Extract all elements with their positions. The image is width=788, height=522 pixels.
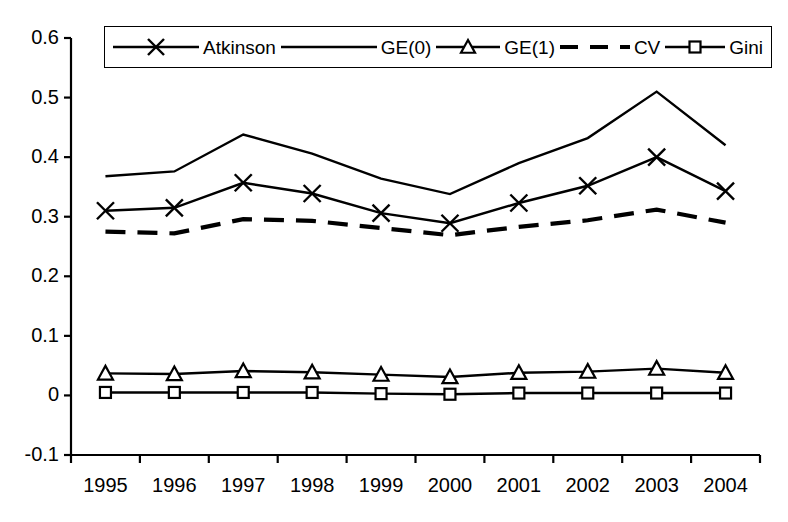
y-axis-tick-label: 0.2 xyxy=(31,265,59,285)
marker-x-cross xyxy=(648,149,665,166)
series-line-ge1 xyxy=(105,369,725,377)
chart-plot-area xyxy=(0,0,788,522)
legend-item-label: Gini xyxy=(729,38,763,57)
legend-key-ge1-icon xyxy=(436,36,500,58)
series-line-cv xyxy=(105,210,725,236)
legend-key-atkinson-icon xyxy=(113,36,199,58)
marker-square xyxy=(376,388,387,399)
legend-marker-square xyxy=(690,42,701,53)
marker-square xyxy=(238,387,249,398)
marker-square xyxy=(100,387,111,398)
legend-item-atkinson[interactable]: Atkinson xyxy=(113,27,276,67)
legend-item-label: CV xyxy=(634,38,660,57)
legend-item-ge1[interactable]: GE(1) xyxy=(436,27,555,67)
chart-legend: AtkinsonGE(0)GE(1)CVGini xyxy=(104,26,772,68)
chart-figure: 0.60.50.40.30.20.10-0.1 1995199619971998… xyxy=(0,0,788,522)
marker-square xyxy=(169,387,180,398)
marker-square xyxy=(651,388,662,399)
marker-x-cross xyxy=(579,177,596,194)
x-axis-tick-label: 2004 xyxy=(686,475,766,495)
y-axis-tick-label: 0.5 xyxy=(31,87,59,107)
legend-item-label: Atkinson xyxy=(203,38,276,57)
legend-item-cv[interactable]: CV xyxy=(560,27,660,67)
series-line-gini xyxy=(105,392,725,394)
y-axis-tick-label: 0.1 xyxy=(31,325,59,345)
y-axis-tick-label: 0.3 xyxy=(31,206,59,226)
marker-square xyxy=(582,388,593,399)
marker-square xyxy=(720,388,731,399)
legend-key-gini-icon xyxy=(665,36,725,58)
series-line-ge0 xyxy=(105,92,725,194)
legend-key-cv-icon xyxy=(560,36,630,58)
y-axis-tick-label: 0 xyxy=(48,384,59,404)
legend-item-label: GE(0) xyxy=(381,38,432,57)
legend-key-ge0-icon xyxy=(281,36,377,58)
legend-item-ge0[interactable]: GE(0) xyxy=(281,27,432,67)
legend-item-label: GE(1) xyxy=(504,38,555,57)
y-axis-tick-label: 0.6 xyxy=(31,27,59,47)
marker-x-cross xyxy=(717,183,734,200)
marker-square xyxy=(513,388,524,399)
y-axis-tick-label: 0.4 xyxy=(31,146,59,166)
marker-square xyxy=(307,387,318,398)
marker-x-cross xyxy=(510,195,527,212)
marker-square xyxy=(444,389,455,400)
legend-item-gini[interactable]: Gini xyxy=(665,27,763,67)
y-axis-tick-label: -0.1 xyxy=(25,444,59,464)
